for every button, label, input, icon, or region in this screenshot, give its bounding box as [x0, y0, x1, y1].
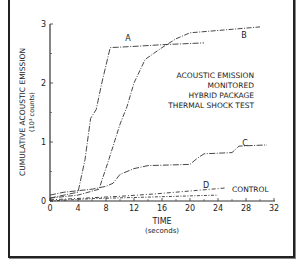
x-tick-label: 28: [241, 204, 251, 213]
series-lines: [50, 27, 267, 201]
y-axis-units: (10³ counts): [28, 92, 36, 132]
y-tick-label: 2: [41, 79, 46, 88]
x-axis-label: TIME: [151, 217, 171, 226]
y-axis-label: CUMULATIVE ACOUSTIC EMISSION: [18, 48, 27, 176]
x-tick-label: 12: [129, 204, 139, 213]
x-tick-label: 16: [157, 204, 167, 213]
x-tick-label: 24: [213, 204, 223, 213]
chart-title-line-3: HYBRID PACKAGE: [188, 91, 254, 100]
x-tick-label: 4: [75, 204, 80, 213]
y-ticks: 0123: [41, 20, 53, 206]
y-tick-label: 1: [41, 138, 46, 147]
x-tick-label: 0: [47, 204, 52, 213]
x-tick-label: 32: [269, 204, 279, 213]
x-tick-label: 20: [185, 204, 195, 213]
curve-label-b: B: [241, 31, 247, 40]
x-ticks: 048121620242832: [47, 198, 279, 213]
chart-title-line-4: THERMAL SHOCK TEST: [167, 101, 254, 110]
series-line-b: [50, 27, 260, 198]
curve-label-c: C: [242, 139, 248, 148]
x-axis-units: (seconds): [145, 227, 179, 235]
y-tick-label: 3: [41, 20, 46, 29]
chart-title-line-2: MONITORED: [208, 81, 255, 90]
chart-title-line-1: ACOUSTIC EMISSION: [177, 71, 254, 80]
series-line-a: [50, 43, 204, 198]
y-tick-label: 0: [41, 197, 46, 206]
curve-label-control: CONTROL: [232, 185, 269, 194]
series-line-d: [50, 188, 225, 200]
curve-label-d: D: [203, 181, 209, 190]
curve-label-a: A: [125, 34, 131, 43]
line-chart: 048121620242832 0123 TIME (seconds) CUMU…: [0, 0, 301, 265]
x-tick-label: 8: [103, 204, 108, 213]
